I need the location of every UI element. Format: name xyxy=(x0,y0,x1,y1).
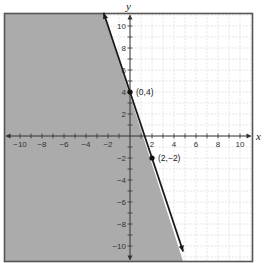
data-point xyxy=(127,89,132,94)
y-tick-label: 4 xyxy=(122,88,127,97)
x-tick-label: 6 xyxy=(194,140,199,149)
x-tick-label: 2 xyxy=(150,140,155,149)
x-axis-label: x xyxy=(255,130,261,142)
x-tick-label: 4 xyxy=(172,140,177,149)
point-label: (0,4) xyxy=(136,87,154,97)
x-tick-label: 8 xyxy=(216,140,221,149)
y-tick-label: −10 xyxy=(112,242,126,251)
point-label: (2,−2) xyxy=(158,153,181,163)
y-tick-label: 8 xyxy=(122,44,127,53)
y-tick-label: −8 xyxy=(117,220,127,229)
data-point xyxy=(149,155,154,160)
x-tick-label: 10 xyxy=(236,140,245,149)
y-tick-label: 10 xyxy=(117,22,126,31)
x-tick-label: −6 xyxy=(59,140,69,149)
x-tick-label: −8 xyxy=(37,140,47,149)
x-tick-label: −10 xyxy=(13,140,27,149)
y-tick-label: −4 xyxy=(117,176,127,185)
y-axis-label: y xyxy=(125,0,131,12)
y-tick-label: −2 xyxy=(117,154,127,163)
y-tick-label: −6 xyxy=(117,198,127,207)
x-tick-label: −2 xyxy=(103,140,113,149)
x-tick-label: −4 xyxy=(81,140,91,149)
graph: −10−8−6−4−2246810108642−2−4−6−8−10 (0,4)… xyxy=(0,0,265,263)
y-tick-label: 2 xyxy=(122,110,127,119)
